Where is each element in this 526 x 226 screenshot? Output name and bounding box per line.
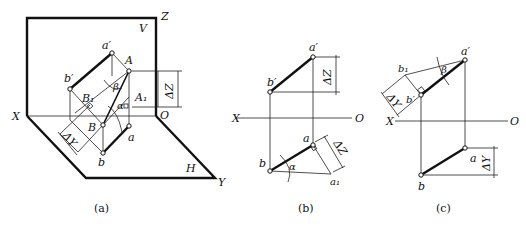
label-V: V <box>139 22 148 35</box>
label-beta: β <box>440 64 447 75</box>
label-O: O <box>355 112 364 125</box>
point-B <box>101 123 105 127</box>
label-dZ-top: ΔZ <box>321 69 334 86</box>
caption-c: (c) <box>436 202 451 215</box>
label-X: X <box>231 112 241 125</box>
label-a-prime: a′ <box>309 41 319 54</box>
label-a-prime: a′ <box>102 39 112 52</box>
point-b <box>419 173 423 177</box>
segment-ab <box>421 148 465 175</box>
label-A: A <box>124 54 133 67</box>
point-b <box>101 151 105 155</box>
segment-a-prime-b-prime <box>70 53 112 89</box>
construct-line <box>60 105 90 134</box>
label-beta: β <box>112 81 119 92</box>
true-length-ab <box>103 71 129 125</box>
dim-ext <box>333 166 345 172</box>
label-B: B <box>87 121 96 134</box>
point-a <box>463 146 467 150</box>
label-O: O <box>160 109 169 122</box>
point-b-prime <box>419 93 423 97</box>
point-a <box>127 124 131 128</box>
point-b <box>268 169 272 173</box>
segment-ab <box>103 126 129 153</box>
point-a <box>311 143 315 147</box>
label-alpha: α <box>289 161 296 172</box>
label-Y: Y <box>218 176 227 189</box>
construct-line <box>103 97 129 125</box>
figure-b: X O a′ b′ a b a₁ α ΔZ ΔZ (b) <box>231 41 364 215</box>
label-a: a <box>303 132 310 145</box>
construct-line-b-prime-b1 <box>405 75 421 95</box>
figure-a: Z V X O H Y a′ A b′ B₁ A₁ B a b β α ΔZ Δ… <box>11 10 227 215</box>
point-b-prime <box>268 90 272 94</box>
right-angle-mark <box>124 104 128 108</box>
point-a-prime <box>311 55 315 59</box>
label-b-prime: b′ <box>64 72 74 85</box>
projection-diagram: Z V X O H Y a′ A b′ B₁ A₁ B a b β α ΔZ Δ… <box>0 0 526 226</box>
label-A1: A₁ <box>134 91 147 104</box>
label-b1: b₁ <box>398 63 408 74</box>
label-dZ-side: ΔZ <box>330 137 350 158</box>
label-H: H <box>185 162 196 175</box>
caption-b: (b) <box>298 202 314 215</box>
label-X: X <box>385 115 395 128</box>
label-a: a <box>128 131 135 144</box>
point-a-prime <box>463 58 467 62</box>
figure-c: X O a′ b₁ b′ a b β ΔY ΔY (c) <box>381 45 519 215</box>
dim-ext <box>315 135 328 142</box>
point-b-prime <box>68 87 72 91</box>
label-a: a <box>470 152 477 165</box>
point-A <box>127 69 131 73</box>
label-alpha: α <box>117 100 124 111</box>
construct-line-b-a1 <box>270 171 331 174</box>
label-dZ: ΔZ <box>163 83 176 100</box>
label-dY-bottom: ΔY <box>480 154 493 172</box>
label-B1: B₁ <box>81 92 95 105</box>
caption-a: (a) <box>94 202 109 215</box>
label-a-prime: a′ <box>461 45 471 58</box>
label-X: X <box>11 110 21 123</box>
label-b: b <box>98 156 105 169</box>
label-b: b <box>418 180 425 193</box>
label-b-prime: b′ <box>267 76 277 89</box>
label-O: O <box>510 115 519 128</box>
label-a1: a₁ <box>330 176 340 187</box>
label-dY-side: ΔY <box>383 90 404 112</box>
label-b: b <box>259 157 266 170</box>
label-Z: Z <box>160 10 169 23</box>
label-b-prime: b′ <box>406 94 415 105</box>
